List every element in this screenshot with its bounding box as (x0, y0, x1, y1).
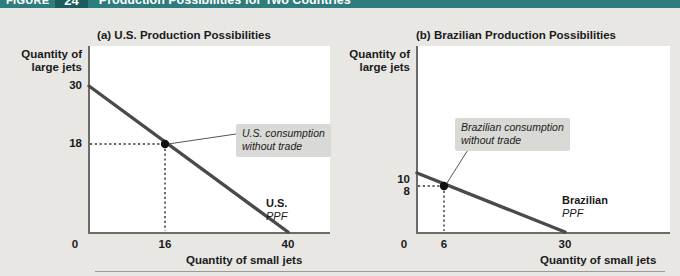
bottom-divider (95, 271, 665, 272)
y-tick-b-8: 8 (380, 185, 410, 197)
curve-label-us-line1: U.S. (266, 197, 287, 209)
x-tick-b-30: 30 (550, 238, 580, 250)
x-axis-title-b: Quantity of small jets (540, 254, 656, 266)
x-tick-b-6: 6 (429, 238, 459, 250)
y-axis-title-b-line1: Quantity of (349, 48, 410, 60)
callout-brazil-line1: Brazilian consumption (461, 121, 564, 133)
y-axis-title-a-line2: large jets (32, 61, 83, 73)
callout-us-consumption: U.S. consumption without trade (236, 124, 331, 157)
x-axis-b (416, 232, 670, 234)
y-axis-title-a-line1: Quantity of (21, 48, 82, 60)
panel-a-title: (a) U.S. Production Possibilities (14, 29, 354, 41)
panel-brazilian-production-possibilities: (b) Brazilian Production Possibilities Q… (340, 14, 680, 264)
figure-word-label: FIGURE (6, 0, 49, 6)
curve-label-us-ppf: U.S. PPF (266, 197, 287, 223)
x-tick-a-40: 40 (273, 238, 303, 250)
figure-header-bar: FIGURE 24 Production Possibilities for T… (0, 0, 680, 8)
y-tick-a-30: 30 (50, 79, 82, 91)
curve-label-us-line2: PPF (266, 210, 287, 222)
y-axis-b (416, 46, 418, 232)
y-axis-title-b-line2: large jets (360, 61, 411, 73)
curve-label-brazil-line2: PPF (562, 207, 583, 219)
figure-title: Production Possibilities for Two Countri… (99, 0, 351, 7)
x-axis-a (88, 232, 330, 234)
y-axis-title-b: Quantity of large jets (340, 48, 410, 74)
y-tick-a-18: 18 (50, 137, 82, 149)
callout-us-line1: U.S. consumption (242, 127, 325, 139)
callout-brazil-line2: without trade (461, 134, 521, 146)
x-tick-a-16: 16 (150, 238, 180, 250)
y-axis-title-a: Quantity of large jets (6, 48, 82, 74)
callout-us-line2: without trade (242, 140, 302, 152)
figure-number-badge: 24 (55, 0, 87, 8)
y-axis-a (88, 46, 90, 232)
callout-brazilian-consumption: Brazilian consumption without trade (455, 118, 570, 151)
x-axis-title-a: Quantity of small jets (186, 254, 302, 266)
panel-us-production-possibilities: (a) U.S. Production Possibilities Quanti… (0, 14, 340, 264)
y-tick-b-10: 10 (380, 173, 410, 185)
x-tick-a-0: 0 (60, 238, 90, 250)
curve-label-brazil-line1: Brazilian (562, 194, 608, 206)
panel-b-title: (b) Brazilian Production Possibilities (346, 29, 680, 41)
curve-label-brazilian-ppf: Brazilian PPF (562, 194, 608, 220)
x-tick-b-0: 0 (389, 238, 419, 250)
